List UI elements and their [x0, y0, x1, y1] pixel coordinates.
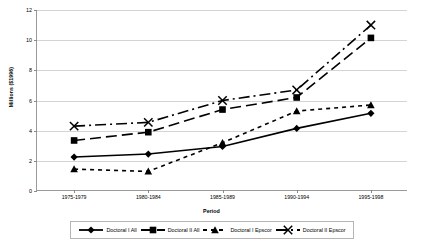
data-point-diamond: [367, 110, 374, 117]
line-chart: Millions ($1996) 024681012 1975-19791980…: [0, 0, 423, 245]
plot-area: 024681012 1975-19791980-19841985-1989199…: [36, 10, 407, 191]
legend-entry[interactable]: Doctoral I Epscor: [202, 225, 271, 235]
data-point-cross: [293, 86, 301, 94]
series-line: [74, 105, 371, 171]
data-point-diamond: [293, 125, 300, 132]
y-axis-tick-label: 8: [29, 67, 32, 73]
y-axis-tick-label: 4: [29, 128, 32, 134]
data-point-cross: [367, 21, 375, 29]
legend-entry[interactable]: Doctoral II All: [140, 225, 200, 235]
data-point-triangle: [219, 139, 227, 146]
data-point-diamond: [88, 226, 95, 233]
series-group: [37, 10, 408, 191]
legend-label: Doctoral II All: [168, 227, 200, 233]
y-axis-tick-label: 2: [29, 158, 32, 164]
data-point-square: [219, 106, 226, 113]
data-point-square: [293, 94, 300, 101]
y-axis-tick-label: 12: [26, 7, 32, 13]
y-axis-title: Millions ($1996): [8, 52, 14, 122]
data-point-diamond: [71, 153, 78, 160]
legend-swatch-square-icon: [140, 225, 166, 235]
legend-swatch-cross-icon: [275, 225, 301, 235]
legend-label: Doctoral II Epscor: [303, 227, 346, 233]
x-axis-tick-label: 1995-1998: [358, 194, 383, 200]
data-point-triangle: [145, 168, 153, 175]
data-point-triangle: [293, 107, 301, 114]
data-point-square: [368, 35, 375, 42]
data-point-square: [145, 129, 152, 136]
legend-entry[interactable]: Doctoral I All: [78, 225, 136, 235]
y-axis-tick-label: 0: [29, 188, 32, 194]
series-doctoral-ii-all: [71, 35, 374, 144]
data-point-square: [71, 137, 78, 144]
y-axis-tick: [34, 191, 37, 192]
chart-legend: Doctoral I AllDoctoral II AllDoctoral I …: [70, 221, 354, 239]
series-doctoral-ii-epscor: [70, 21, 375, 130]
data-point-diamond: [145, 150, 152, 157]
series-line: [74, 113, 371, 157]
x-axis-tick-label: 1985-1989: [210, 194, 235, 200]
y-axis-tick-label: 10: [26, 37, 32, 43]
legend-label: Doctoral I Epscor: [230, 227, 271, 233]
legend-label: Doctoral I All: [106, 227, 136, 233]
y-axis-tick-label: 6: [29, 98, 32, 104]
legend-entry[interactable]: Doctoral II Epscor: [275, 225, 346, 235]
x-axis-tick-label: 1990-1994: [284, 194, 309, 200]
legend-swatch-diamond-icon: [78, 225, 104, 235]
series-line: [74, 38, 371, 141]
x-axis-tick-label: 1980-1984: [136, 194, 161, 200]
x-axis-tick-label: 1975-1979: [62, 194, 87, 200]
data-point-square: [149, 227, 156, 234]
legend-swatch-triangle-icon: [202, 225, 228, 235]
x-axis-title: Period: [0, 208, 423, 214]
